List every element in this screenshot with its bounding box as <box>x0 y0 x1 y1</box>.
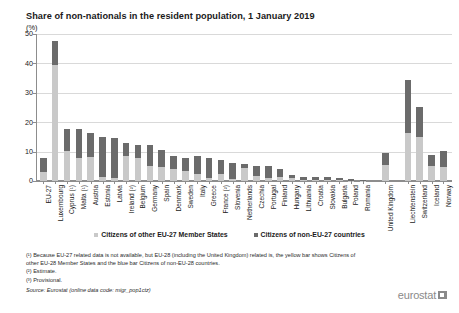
footnote-2: (²) Estimate. <box>26 268 356 276</box>
x-axis-label: Luxembourg <box>58 185 65 221</box>
x-axis-label: Sweden <box>188 185 195 209</box>
footnotes: (¹) Because EU-27 related data is not av… <box>26 252 356 296</box>
y-axis-tick-mark <box>33 34 36 35</box>
y-axis-tick-label: 40 <box>25 60 33 67</box>
x-axis-tick-mark <box>327 181 328 184</box>
y-axis-tick-label: 10 <box>25 148 33 155</box>
x-axis-tick-mark <box>443 181 444 184</box>
x-axis-label: Greece <box>211 185 218 206</box>
x-axis-label: Italy <box>200 185 207 197</box>
x-axis-tick-mark <box>150 181 151 184</box>
legend-label: Citizens of other EU-27 Member States <box>101 231 227 238</box>
legend-item-eu27[interactable]: Citizens of other EU-27 Member States <box>94 231 227 238</box>
x-axis-label: Czechia <box>259 185 266 208</box>
x-axis-tick-mark <box>91 181 92 184</box>
x-axis-label: France (²) <box>223 185 230 214</box>
x-axis-tick-mark <box>268 181 269 184</box>
x-axis-label: Portugal <box>271 185 278 209</box>
x-axis-label: Netherlands <box>247 185 254 220</box>
x-axis-tick-mark <box>351 181 352 184</box>
x-axis-tick-mark <box>420 181 421 184</box>
x-axis-label: Germany <box>152 185 159 212</box>
footnote-3: (³) Provisional. <box>26 277 356 285</box>
x-axis-tick-mark <box>209 181 210 184</box>
y-axis-tick-mark <box>33 63 36 64</box>
x-axis-tick-mark <box>103 181 104 184</box>
x-axis-label: Belgium <box>140 185 147 208</box>
x-axis-tick-mark <box>43 181 44 184</box>
x-axis-label: Iceland <box>434 185 441 206</box>
x-axis-tick-mark <box>245 181 246 184</box>
x-axis-tick-mark <box>363 181 364 184</box>
x-axis-label: Slovenia <box>235 185 242 210</box>
x-axis-label: Cyprus (¹) <box>69 185 76 214</box>
y-axis-tick-label: 30 <box>25 89 33 96</box>
x-axis-label: Lithuania <box>306 185 313 211</box>
x-axis-tick-mark <box>55 181 56 184</box>
chart-figure: Share of non-nationals in the resident p… <box>0 0 459 313</box>
x-axis-label: Malta (¹) <box>81 185 88 209</box>
x-axis-label: EU-27 <box>46 185 53 203</box>
x-axis-label: Slovakia <box>330 185 337 210</box>
x-axis-label: Poland <box>353 185 360 205</box>
chart-legend: Citizens of other EU-27 Member StatesCit… <box>0 231 459 238</box>
x-axis-label: United Kingdom <box>388 185 395 231</box>
x-axis-label: Liechtenstein <box>410 185 417 223</box>
legend-swatch-icon <box>94 233 98 237</box>
eurostat-wordmark: eurostat <box>398 289 436 301</box>
x-axis-tick-mark <box>256 181 257 184</box>
x-axis-label: Austria <box>93 185 100 205</box>
x-axis-tick-mark <box>280 181 281 184</box>
footnote-1: (¹) Because EU-27 related data is not av… <box>26 252 356 268</box>
x-axis-tick-mark <box>138 181 139 184</box>
y-axis-tick-mark <box>33 122 36 123</box>
x-axis-tick-mark <box>174 181 175 184</box>
source-note: Source: Eurostat (online data code: migr… <box>26 287 356 295</box>
x-axis-label: Ireland (²) <box>129 185 136 213</box>
x-axis-tick-mark <box>233 181 234 184</box>
x-axis-tick-mark <box>339 181 340 184</box>
x-axis-tick-mark <box>292 181 293 184</box>
x-axis-label: Croatia <box>318 185 325 206</box>
x-axis-tick-mark <box>162 181 163 184</box>
x-axis-tick-mark <box>316 181 317 184</box>
x-axis-label: Finland <box>282 185 289 206</box>
x-axis-tick-mark <box>385 181 386 184</box>
x-axis-label: Bulgaria <box>342 185 349 209</box>
x-axis-tick-mark <box>126 181 127 184</box>
eurostat-flag-icon <box>438 291 447 299</box>
x-axis-label: Estonia <box>105 185 112 207</box>
x-axis-label: Norway <box>446 185 453 207</box>
x-axis-label: Hungary <box>294 185 301 210</box>
x-axis-label: Latvia <box>117 185 124 202</box>
y-axis-tick-label: 20 <box>25 119 33 126</box>
y-axis-tick-mark <box>33 152 36 153</box>
x-axis-tick-mark <box>408 181 409 184</box>
y-axis-tick-mark <box>33 93 36 94</box>
x-axis-tick-mark <box>432 181 433 184</box>
x-axis-tick-mark <box>114 181 115 184</box>
y-axis-tick-label: 50 <box>25 30 33 37</box>
x-axis-tick-mark <box>304 181 305 184</box>
y-axis-tick-mark <box>33 181 36 182</box>
eurostat-logo: eurostat <box>398 289 447 301</box>
x-axis-tick-mark <box>79 181 80 184</box>
x-axis-tick-mark <box>67 181 68 184</box>
x-axis-tick-mark <box>197 181 198 184</box>
x-axis-label: Romania <box>365 185 372 211</box>
x-axis-label: Denmark <box>176 185 183 211</box>
legend-label: Citizens of non-EU-27 countries <box>261 231 365 238</box>
legend-swatch-icon <box>254 233 258 237</box>
x-axis-label: Switzerland <box>422 185 429 219</box>
legend-item-noneu27[interactable]: Citizens of non-EU-27 countries <box>254 231 365 238</box>
x-axis-label: Spain <box>164 185 171 202</box>
